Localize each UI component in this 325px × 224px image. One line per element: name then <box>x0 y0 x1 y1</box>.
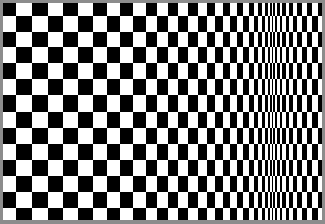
dark-square <box>63 192 78 208</box>
dark-square <box>146 3 157 16</box>
light-square <box>188 79 198 95</box>
light-square <box>32 16 48 32</box>
dark-square <box>168 160 178 176</box>
light-square <box>146 144 157 160</box>
dark-square <box>198 47 207 63</box>
dark-square <box>207 192 215 208</box>
light-square <box>107 160 120 176</box>
dark-square <box>146 128 157 144</box>
dark-square <box>16 47 32 63</box>
dark-square <box>198 176 207 192</box>
light-square <box>215 32 223 47</box>
light-square <box>63 47 78 63</box>
light-square <box>215 128 223 144</box>
dark-square <box>230 47 237 63</box>
dark-square <box>178 144 188 160</box>
dark-square <box>78 112 93 128</box>
light-square <box>93 79 107 95</box>
dark-square <box>168 63 178 79</box>
dark-square <box>63 128 78 144</box>
light-square <box>188 47 198 63</box>
light-square <box>198 63 207 79</box>
light-square <box>207 208 215 220</box>
dark-square <box>32 3 48 16</box>
light-square <box>198 160 207 176</box>
dark-square <box>198 208 207 220</box>
light-square <box>178 3 188 16</box>
light-square <box>157 160 168 176</box>
dark-square <box>133 176 146 192</box>
light-square <box>32 144 48 160</box>
light-square <box>16 160 32 176</box>
light-square <box>16 63 32 79</box>
dark-square <box>78 79 93 95</box>
light-square <box>107 128 120 144</box>
dark-square <box>93 63 107 79</box>
light-square <box>3 208 16 220</box>
dark-square <box>63 63 78 79</box>
light-square <box>146 79 157 95</box>
dark-square <box>230 176 237 192</box>
light-square <box>48 192 63 208</box>
light-square <box>178 32 188 47</box>
dark-square <box>188 128 198 144</box>
light-square <box>168 112 178 128</box>
dark-square <box>230 112 237 128</box>
dark-square <box>207 32 215 47</box>
light-square <box>168 79 178 95</box>
light-square <box>133 3 146 16</box>
light-square <box>178 95 188 112</box>
dark-square <box>133 208 146 220</box>
dark-square <box>230 79 237 95</box>
light-square <box>168 47 178 63</box>
dark-square <box>16 16 32 32</box>
light-square <box>133 95 146 112</box>
dark-square <box>93 192 107 208</box>
dark-square <box>48 208 63 220</box>
light-square <box>120 47 133 63</box>
dark-square <box>215 79 223 95</box>
light-square <box>318 79 322 95</box>
light-square <box>146 176 157 192</box>
dark-square <box>3 95 16 112</box>
light-square <box>146 208 157 220</box>
light-square <box>230 63 237 79</box>
light-square <box>188 176 198 192</box>
light-square <box>93 208 107 220</box>
dark-square <box>157 16 168 32</box>
dark-square <box>120 32 133 47</box>
dark-square <box>230 16 237 32</box>
light-square <box>168 208 178 220</box>
light-square <box>120 208 133 220</box>
dark-square <box>146 160 157 176</box>
light-square <box>93 47 107 63</box>
light-square <box>223 112 230 128</box>
light-square <box>168 16 178 32</box>
dark-square <box>188 192 198 208</box>
dark-square <box>207 160 215 176</box>
dark-square <box>146 95 157 112</box>
light-square <box>157 95 168 112</box>
dark-square <box>16 176 32 192</box>
dark-square <box>223 95 230 112</box>
dark-square <box>32 63 48 79</box>
dark-square <box>120 128 133 144</box>
dark-square <box>215 16 223 32</box>
dark-square <box>3 128 16 144</box>
dark-square <box>223 192 230 208</box>
light-square <box>120 144 133 160</box>
light-square <box>188 112 198 128</box>
dark-square <box>178 176 188 192</box>
dark-square <box>16 79 32 95</box>
light-square <box>107 95 120 112</box>
light-square <box>157 32 168 47</box>
light-square <box>198 192 207 208</box>
light-square <box>16 95 32 112</box>
light-square <box>168 176 178 192</box>
dark-square <box>93 128 107 144</box>
dark-square <box>230 208 237 220</box>
dark-square <box>215 47 223 63</box>
dark-square <box>48 16 63 32</box>
dark-square <box>133 79 146 95</box>
light-square <box>223 176 230 192</box>
